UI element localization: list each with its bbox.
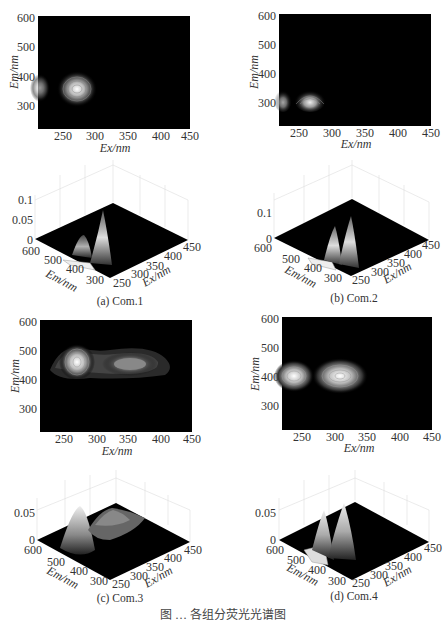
ex-tick: 250 bbox=[113, 276, 131, 290]
figure-caption: 图 … 各组分荧光光谱图 bbox=[160, 605, 286, 623]
ex-tick: 450 bbox=[423, 430, 441, 444]
contour-plot-a: 600 500 400 300 250 300 350 400 450 Ex/n… bbox=[0, 0, 224, 160]
em-tick: 300 bbox=[86, 273, 104, 287]
em-tick: 300 bbox=[261, 399, 279, 413]
panel-caption-c: (c) Com.3 bbox=[20, 592, 220, 604]
em-tick: 300 bbox=[90, 574, 108, 588]
em-tick: 400 bbox=[261, 370, 279, 384]
em-tick: 300 bbox=[19, 402, 37, 416]
em-tick: 600 bbox=[24, 543, 42, 557]
panel-a-contour: 600 500 400 300 250 300 350 400 450 Ex/n… bbox=[0, 0, 224, 164]
em-tick: 600 bbox=[258, 9, 276, 23]
ex-tick: 250 bbox=[112, 577, 130, 591]
z-tick: 0.05 bbox=[14, 506, 35, 520]
em-tick: 600 bbox=[22, 244, 40, 258]
em-tick: 400 bbox=[66, 262, 84, 276]
surface-plot-d: 0.05 0 600 500 400 300 250 300 350 400 4… bbox=[224, 470, 448, 605]
em-tick: 300 bbox=[258, 96, 276, 110]
ex-tick: 400 bbox=[391, 430, 409, 444]
panel-caption-b: (b) Com.2 bbox=[254, 292, 448, 304]
em-tick: 600 bbox=[19, 315, 37, 329]
ex-tick: 250 bbox=[290, 126, 308, 140]
em-tick: 500 bbox=[17, 40, 35, 54]
em-tick: 300 bbox=[328, 574, 346, 588]
ex-tick: 250 bbox=[54, 129, 72, 143]
panel-b-surface: 0.1 0 600 500 400 300 250 300 350 400 45… bbox=[224, 160, 448, 314]
em-tick: 600 bbox=[261, 312, 279, 326]
contour-plot-c: 600 500 400 300 250 300 350 400 450 Ex/n… bbox=[0, 310, 224, 470]
panel-b-contour: 600 500 400 300 250 300 350 400 450 Ex/n… bbox=[224, 0, 448, 164]
ex-tick: 450 bbox=[183, 432, 201, 446]
ex-tick: 300 bbox=[323, 126, 341, 140]
ex-tick: 450 bbox=[424, 541, 442, 555]
panel-d-surface: 0.05 0 600 500 400 300 250 300 350 400 4… bbox=[224, 470, 448, 609]
panel-c-contour: 600 500 400 300 250 300 350 400 450 Ex/n… bbox=[0, 310, 224, 474]
em-tick: 500 bbox=[44, 253, 62, 267]
z-tick: 0.1 bbox=[257, 206, 272, 220]
y-axis-label: Em/nm bbox=[248, 357, 262, 392]
ex-tick: 250 bbox=[55, 432, 73, 446]
y-axis-label: Em/nm bbox=[247, 55, 261, 90]
panel-d-contour: 600 500 400 300 250 300 350 400 450 Ex/n… bbox=[224, 310, 448, 474]
ex-tick: 250 bbox=[293, 430, 311, 444]
em-tick: 300 bbox=[324, 271, 342, 285]
x-axis-label: Ex/nm bbox=[343, 441, 375, 455]
em-tick: 600 bbox=[254, 241, 272, 255]
ex-tick: 400 bbox=[152, 432, 170, 446]
em-tick: 500 bbox=[258, 38, 276, 52]
panel-a-surface: 0.1 0.05 0 600 500 400 300 250 300 350 4… bbox=[0, 160, 224, 314]
surface-plot-b: 0.1 0 600 500 400 300 250 300 350 400 45… bbox=[224, 160, 448, 310]
ex-tick: 400 bbox=[152, 129, 170, 143]
ex-tick: 450 bbox=[184, 543, 202, 557]
y-axis-label: Em/nm bbox=[8, 359, 22, 394]
em-tick: 600 bbox=[266, 543, 284, 557]
x-axis-label: Ex/nm bbox=[101, 444, 133, 458]
contour-plot-d: 600 500 400 300 250 300 350 400 450 Ex/n… bbox=[224, 310, 448, 470]
ex-tick: 400 bbox=[389, 126, 407, 140]
em-tick: 600 bbox=[17, 11, 35, 25]
panel-c-surface: 0.05 0 600 500 400 300 250 300 350 400 4… bbox=[0, 470, 224, 609]
em-tick: 300 bbox=[17, 99, 35, 113]
em-tick: 500 bbox=[261, 341, 279, 355]
ex-tick: 450 bbox=[422, 126, 440, 140]
panel-caption-d: (d) Com.4 bbox=[254, 590, 448, 602]
ex-tick: 450 bbox=[422, 238, 440, 252]
z-tick: 0.05 bbox=[12, 213, 33, 227]
y-axis-label: Em/nm bbox=[7, 55, 21, 90]
surface-plot-a: 0.1 0.05 0 600 500 400 300 250 300 350 4… bbox=[0, 160, 224, 310]
ex-tick: 450 bbox=[183, 240, 201, 254]
ex-tick: 450 bbox=[181, 129, 199, 143]
panel-caption-a: (a) Com.1 bbox=[20, 295, 220, 307]
x-axis-label: Ex/nm bbox=[340, 137, 372, 151]
contour-plot-b: 600 500 400 300 250 300 350 400 450 Ex/n… bbox=[224, 0, 448, 160]
x-axis-label: Ex/nm bbox=[99, 141, 131, 155]
z-tick: 0.05 bbox=[255, 506, 276, 520]
ex-tick: 300 bbox=[326, 430, 344, 444]
ex-tick: 250 bbox=[352, 576, 370, 590]
ex-tick: 400 bbox=[164, 249, 182, 263]
surface-plot-c: 0.05 0 600 500 400 300 250 300 350 400 4… bbox=[0, 470, 224, 605]
ex-tick: 250 bbox=[352, 273, 370, 287]
em-tick: 500 bbox=[19, 344, 37, 358]
z-tick: 0.1 bbox=[18, 193, 33, 207]
